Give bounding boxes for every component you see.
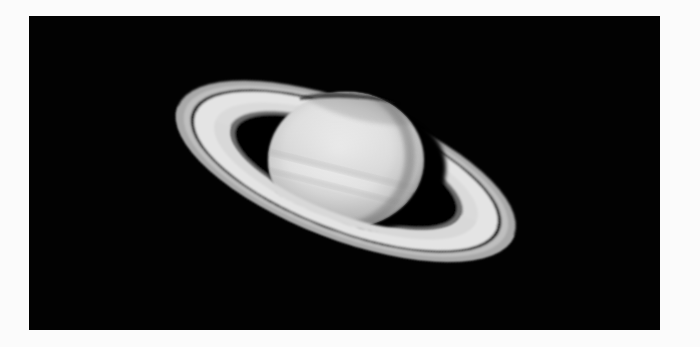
saturn-photo [0, 0, 700, 347]
photo-frame [0, 0, 700, 347]
